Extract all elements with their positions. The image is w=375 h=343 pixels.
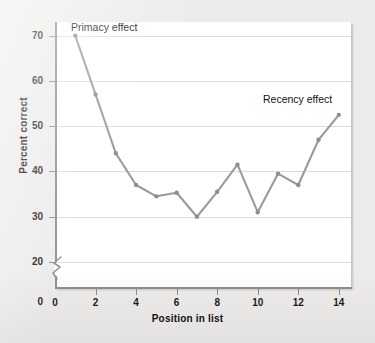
x-axis-line bbox=[55, 287, 352, 289]
data-point bbox=[235, 162, 239, 166]
x-axis-tick-label: 2 bbox=[84, 297, 108, 308]
data-point bbox=[114, 151, 118, 155]
y-axis-tick-label: 70 bbox=[13, 31, 43, 41]
annotation-recency-effect: Recency effect bbox=[263, 93, 332, 105]
x-axis-tick-label: 6 bbox=[165, 297, 189, 308]
x-axis-tick-label: 4 bbox=[124, 297, 148, 308]
data-point bbox=[337, 113, 341, 117]
data-point bbox=[296, 183, 300, 187]
x-axis-tick bbox=[177, 289, 178, 295]
y-axis-tick bbox=[49, 36, 56, 37]
data-point bbox=[215, 190, 219, 194]
serial-position-curve-figure: 2030405060700 02468101214 Percent correc… bbox=[0, 0, 375, 343]
y-axis-tick bbox=[49, 217, 56, 218]
x-axis-tick-label: 10 bbox=[246, 297, 270, 308]
x-axis-tick bbox=[96, 289, 97, 295]
y-axis-line bbox=[55, 22, 57, 262]
x-axis-tick bbox=[339, 289, 340, 295]
data-point bbox=[316, 138, 320, 142]
annotation-primacy-effect: Primacy effect bbox=[71, 21, 137, 33]
data-point bbox=[195, 215, 199, 219]
x-axis-tick bbox=[217, 289, 218, 295]
y-axis-tick-label: 20 bbox=[13, 257, 43, 267]
x-axis-tick bbox=[258, 289, 259, 295]
series-polyline bbox=[75, 36, 339, 217]
y-axis-tick-label: 30 bbox=[13, 212, 43, 222]
x-axis-tick-label: 0 bbox=[43, 297, 67, 308]
data-point bbox=[154, 194, 158, 198]
data-series-line bbox=[55, 22, 351, 288]
y-axis-origin-label: 0 bbox=[13, 297, 43, 307]
data-point bbox=[93, 92, 97, 96]
data-point bbox=[73, 33, 77, 37]
series-markers-group bbox=[73, 33, 341, 219]
y-axis-tick bbox=[49, 126, 56, 127]
data-point bbox=[134, 183, 138, 187]
x-axis-tick-label: 14 bbox=[327, 297, 351, 308]
data-point bbox=[174, 191, 178, 195]
x-axis-label: Position in list bbox=[0, 313, 375, 324]
y-axis-label: Percent correct bbox=[18, 66, 29, 206]
data-point bbox=[276, 172, 280, 176]
x-axis-tick bbox=[298, 289, 299, 295]
y-axis-break-icon bbox=[47, 256, 67, 280]
x-axis-tick-label: 12 bbox=[286, 297, 310, 308]
x-axis-tick bbox=[136, 289, 137, 295]
y-axis-tick bbox=[49, 171, 56, 172]
data-point bbox=[256, 210, 260, 214]
y-axis-tick bbox=[49, 81, 56, 82]
x-axis-tick-label: 8 bbox=[205, 297, 229, 308]
